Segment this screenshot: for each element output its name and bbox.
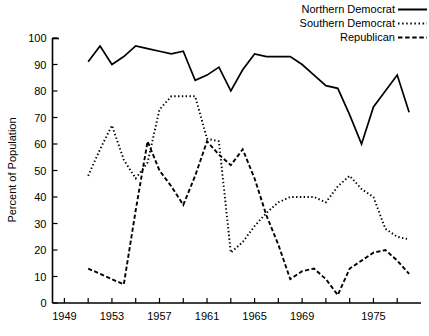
x-tick-label: 1965 bbox=[242, 310, 266, 322]
y-tick-label: 90 bbox=[34, 59, 46, 71]
x-tick-label: 1957 bbox=[147, 310, 171, 322]
y-tick-label: 10 bbox=[34, 271, 46, 283]
y-tick-label: 40 bbox=[34, 191, 46, 203]
chart-container: Northern Democrat Southern Democrat Repu… bbox=[0, 0, 429, 336]
line-chart: Northern Democrat Southern Democrat Repu… bbox=[0, 0, 429, 336]
x-tick-label: 1953 bbox=[100, 310, 124, 322]
series-line-southern-democrat bbox=[88, 96, 409, 252]
series-line-republican bbox=[88, 141, 409, 295]
x-axis: 1949195319571961196519691975 bbox=[52, 298, 397, 322]
y-axis-title: Percent of Population bbox=[6, 117, 18, 222]
x-tick-label: 1969 bbox=[290, 310, 314, 322]
y-tick-label: 20 bbox=[34, 244, 46, 256]
y-tick-label: 100 bbox=[28, 32, 46, 44]
legend: Northern Democrat Southern Democrat Repu… bbox=[300, 3, 427, 43]
legend-label-southern-democrat: Southern Democrat bbox=[300, 17, 395, 29]
y-tick-label: 80 bbox=[34, 85, 46, 97]
y-tick-label: 30 bbox=[34, 218, 46, 230]
data-series-group bbox=[88, 46, 409, 295]
x-tick-label: 1975 bbox=[361, 310, 385, 322]
y-tick-label: 0 bbox=[40, 297, 46, 309]
y-tick-label: 60 bbox=[34, 138, 46, 150]
y-tick-label: 50 bbox=[34, 165, 46, 177]
x-tick-label: 1949 bbox=[52, 310, 76, 322]
legend-label-republican: Republican bbox=[340, 31, 395, 43]
x-tick-label: 1961 bbox=[195, 310, 219, 322]
series-line-northern-democrat bbox=[88, 46, 409, 144]
legend-label-northern-democrat: Northern Democrat bbox=[301, 3, 395, 15]
y-tick-label: 70 bbox=[34, 112, 46, 124]
